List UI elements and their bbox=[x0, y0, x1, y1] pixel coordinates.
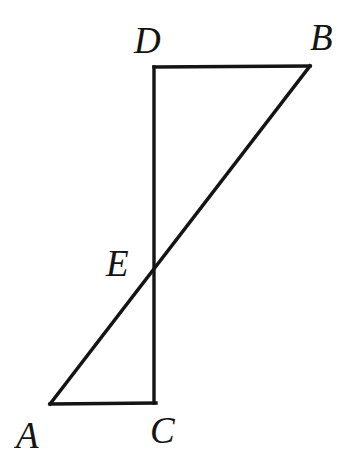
geometry-canvas bbox=[0, 0, 352, 473]
vertex-label-A: A bbox=[16, 417, 39, 454]
segment-DB bbox=[154, 66, 310, 67]
segment-AC bbox=[50, 403, 156, 404]
vertex-label-C: C bbox=[150, 412, 175, 449]
vertex-label-D: D bbox=[134, 22, 161, 59]
geometry-figure: D B E A C bbox=[0, 0, 352, 473]
vertex-label-E: E bbox=[106, 245, 129, 282]
vertex-label-B: B bbox=[310, 19, 333, 56]
